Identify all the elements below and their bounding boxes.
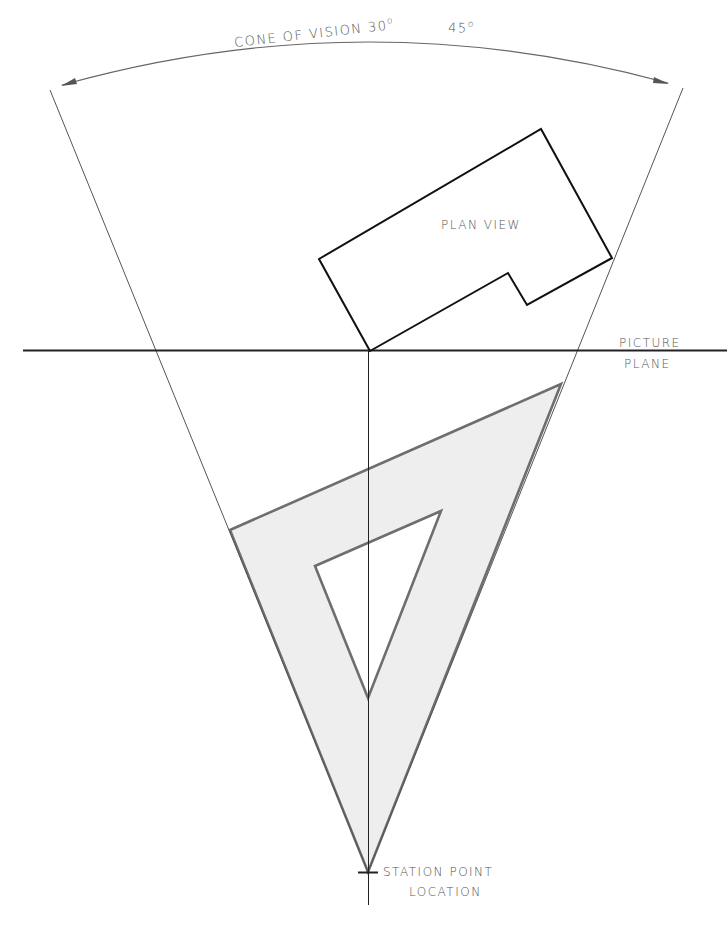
- cone-left-ray: [50, 90, 368, 872]
- station-point-label-line2: LOCATION: [409, 885, 482, 899]
- arrowhead-left-icon: [61, 78, 77, 86]
- plan-view-outline: [319, 129, 612, 351]
- plan-view-label: PLAN VIEW: [441, 218, 521, 232]
- cone-of-vision-label: CONE OF VISION 30o: [233, 15, 395, 50]
- drafting-triangle: [230, 384, 561, 872]
- station-point-label-line1: STATION POINT: [383, 865, 493, 879]
- cone-alt-angle-label: 45o: [448, 18, 475, 36]
- picture-plane-label-line1: PICTURE: [619, 336, 681, 350]
- perspective-diagram: CONE OF VISION 30o 45o PLAN VIEW PICTURE…: [0, 0, 727, 927]
- cone-arc: [62, 42, 668, 85]
- picture-plane-label-line2: PLANE: [624, 357, 670, 371]
- arrowhead-right-icon: [653, 77, 669, 84]
